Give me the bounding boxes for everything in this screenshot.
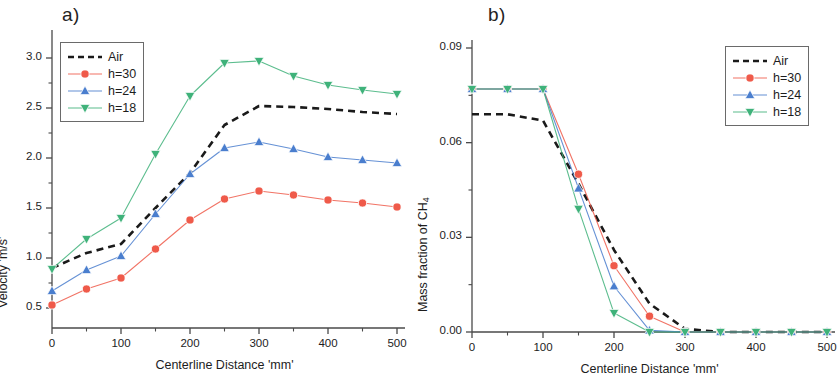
- data-point-marker: [289, 191, 297, 199]
- legend-key-circle-icon: [66, 66, 104, 82]
- data-point-marker: [186, 216, 194, 224]
- data-point-marker: [255, 187, 263, 195]
- data-point-marker: [610, 262, 618, 270]
- data-point-marker: [254, 137, 264, 146]
- data-point-marker: [116, 214, 126, 223]
- panel-a-x-axis-title: Centerline Distance 'mm': [22, 358, 427, 372]
- legend-key-triangle-down-icon: [731, 104, 769, 120]
- panel-b-x-axis-title: Centerline Distance 'mm': [442, 362, 840, 376]
- panel-a-x-tick-label: 500: [375, 337, 419, 349]
- data-point-marker: [47, 286, 57, 295]
- legend-label: h=18: [108, 101, 136, 115]
- panel-a-x-tick-label: 400: [306, 337, 350, 349]
- legend-entry-h24: h=24: [731, 86, 801, 103]
- data-point-marker: [151, 245, 159, 253]
- y-axis-title-subscript: 4: [421, 197, 431, 202]
- panel-a-x-tick-label: 100: [99, 337, 143, 349]
- legend-entry-air: Air: [731, 52, 801, 69]
- data-point-marker: [324, 196, 332, 204]
- data-point-marker: [48, 301, 56, 309]
- legend-key-triangle-up-icon: [731, 87, 769, 103]
- data-point-marker: [393, 203, 401, 211]
- data-point-marker: [609, 281, 619, 290]
- panel-a-y-tick-label: 2.0: [0, 150, 42, 162]
- data-point-marker: [574, 205, 584, 214]
- legend-label: h=18: [773, 105, 801, 119]
- legend-key-dashed-line: [731, 53, 769, 69]
- panel-b-x-tick-label: 500: [805, 341, 840, 353]
- data-point-marker: [358, 199, 366, 207]
- data-point-marker: [82, 285, 90, 293]
- panel-a-x-tick-label: 200: [168, 337, 212, 349]
- panel-a-y-tick-label: 1.0: [0, 250, 42, 262]
- legend-label: h=30: [108, 67, 136, 81]
- panel-b: b) Centerline Distance 'mm' Mass fractio…: [420, 0, 840, 376]
- data-point-marker: [117, 274, 125, 282]
- figure-two-panel-line-charts: a) Centerline Distance 'mm' Velocity 'm/…: [0, 0, 840, 376]
- legend-entry-h18: h=18: [66, 99, 136, 116]
- panel-b-y-tick-label: 0.00: [416, 324, 462, 336]
- legend-entry-h30: h=30: [66, 65, 136, 82]
- panel-a-y-tick-label: 0.5: [0, 300, 42, 312]
- panel-a-y-tick-label: 3.0: [0, 50, 42, 62]
- data-point-marker: [220, 195, 228, 203]
- legend-label: h=24: [773, 88, 801, 102]
- legend-key-triangle-down-icon: [66, 100, 104, 116]
- data-point-marker: [185, 92, 195, 101]
- data-point-marker: [609, 309, 619, 318]
- legend-key-dashed-line: [66, 49, 104, 65]
- panel-b-x-tick-label: 400: [734, 341, 778, 353]
- panel-a-legend: Airh=30h=24h=18: [60, 42, 144, 122]
- data-point-marker: [574, 170, 582, 178]
- panel-b-x-tick-label: 200: [592, 341, 636, 353]
- panel-a: a) Centerline Distance 'mm' Velocity 'm/…: [0, 0, 420, 376]
- legend-label: Air: [108, 50, 123, 64]
- panel-b-x-tick-label: 0: [450, 341, 494, 353]
- panel-b-y-tick-label: 0.06: [416, 135, 462, 147]
- panel-b-legend: Airh=30h=24h=18: [725, 46, 809, 126]
- panel-b-y-tick-label: 0.09: [416, 40, 462, 52]
- legend-entry-air: Air: [66, 48, 136, 65]
- legend-label: h=30: [773, 71, 801, 85]
- data-point-marker: [645, 312, 653, 320]
- legend-entry-h18: h=18: [731, 103, 801, 120]
- panel-a-y-tick-label: 2.5: [0, 100, 42, 112]
- legend-label: Air: [773, 54, 788, 68]
- legend-key-circle-icon: [731, 70, 769, 86]
- data-point-marker: [151, 150, 161, 159]
- data-point-marker: [82, 265, 92, 274]
- legend-key-triangle-up-icon: [66, 83, 104, 99]
- legend-entry-h30: h=30: [731, 69, 801, 86]
- data-point-marker: [47, 265, 57, 274]
- panel-a-x-tick-label: 0: [30, 337, 74, 349]
- data-point-marker: [185, 169, 195, 178]
- legend-label: h=24: [108, 84, 136, 98]
- y-axis-title-text: Mass fraction of CH: [416, 202, 430, 312]
- panel-a-x-tick-label: 300: [237, 337, 281, 349]
- data-point-marker: [392, 90, 402, 99]
- panel-b-y-tick-label: 0.03: [416, 229, 462, 241]
- panel-b-x-tick-label: 300: [663, 341, 707, 353]
- panel-a-y-tick-label: 1.5: [0, 200, 42, 212]
- panel-b-x-tick-label: 100: [521, 341, 565, 353]
- data-point-marker: [82, 235, 92, 244]
- legend-entry-h24: h=24: [66, 82, 136, 99]
